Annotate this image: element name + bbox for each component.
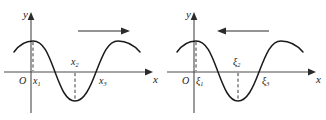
y-axis-label: y xyxy=(23,9,28,20)
point-label-2-sub: 2 xyxy=(237,61,240,68)
point-label-1-sub: 1 xyxy=(200,80,203,87)
y-axis xyxy=(191,12,198,113)
figure-container: y x O x1 x2 x3 xyxy=(0,0,326,120)
x-axis-label: x xyxy=(316,74,321,85)
point-label-2: x2 xyxy=(71,57,79,67)
point-label-1: x1 xyxy=(33,76,41,86)
point-label-3-sub: 3 xyxy=(266,80,269,87)
y-axis xyxy=(28,12,35,113)
point-label-1: ξ1 xyxy=(196,76,203,86)
x-axis-label: x xyxy=(153,74,158,85)
point-label-2: ξ2 xyxy=(233,57,240,67)
origin-label: O xyxy=(182,76,189,86)
right-panel: y x O ξ1 ξ2 ξ3 xyxy=(163,0,326,120)
y-axis-label: y xyxy=(186,9,191,20)
point-label-3: ξ3 xyxy=(262,76,269,86)
origin-label: O xyxy=(19,76,26,86)
point-label-3: x3 xyxy=(99,76,107,86)
point-label-1-sub: 1 xyxy=(37,80,40,87)
point-label-3-sub: 3 xyxy=(103,80,106,87)
x-axis xyxy=(167,69,316,76)
direction-arrow-left-icon xyxy=(217,28,269,35)
point-label-2-sub: 2 xyxy=(75,61,78,68)
direction-arrow-right-icon xyxy=(78,28,130,35)
left-panel: y x O x1 x2 x3 xyxy=(0,0,163,120)
x-axis xyxy=(4,69,153,76)
